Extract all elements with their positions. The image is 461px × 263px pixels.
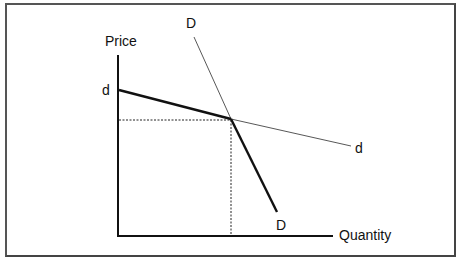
d-curve-label-right: d [355, 140, 363, 156]
x-axis-label: Quantity [339, 227, 391, 243]
d-curve-thin-extension [231, 119, 351, 146]
y-axis-label: Price [105, 33, 137, 49]
d-curve-label-left: d [102, 82, 110, 98]
D-curve-thin-extension [194, 37, 231, 119]
d-curve-thick-segment [119, 90, 231, 119]
kinked-demand-diagram: Price Quantity d d D D [0, 0, 461, 263]
D-curve-thick-segment [231, 119, 277, 212]
D-curve-label-top: D [186, 15, 196, 31]
D-curve-label-bottom: D [276, 217, 286, 233]
